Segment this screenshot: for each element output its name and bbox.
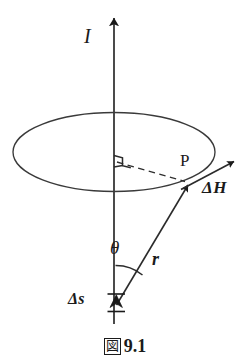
caption-figure-mark: 図 xyxy=(104,338,121,355)
label-delta-H: ΔH xyxy=(202,179,227,196)
label-current-I: I xyxy=(84,26,91,46)
figure-container: I P ΔH θ r Δs 図9.1 xyxy=(0,0,250,362)
figure-caption: 図9.1 xyxy=(0,336,250,357)
right-angle-marker-base xyxy=(114,166,123,167)
radial-dashed-line xyxy=(117,162,185,182)
radial-dashed-line-group xyxy=(117,162,185,182)
label-point-P: P xyxy=(180,152,189,169)
r-vector-group xyxy=(117,185,189,305)
label-theta: θ xyxy=(110,238,119,257)
label-delta-s: Δs xyxy=(68,291,85,307)
caption-figure-number: 9.1 xyxy=(124,336,147,356)
label-r: r xyxy=(152,250,159,268)
right-angle-icon xyxy=(114,156,131,168)
r-vector-arrow xyxy=(117,185,189,305)
